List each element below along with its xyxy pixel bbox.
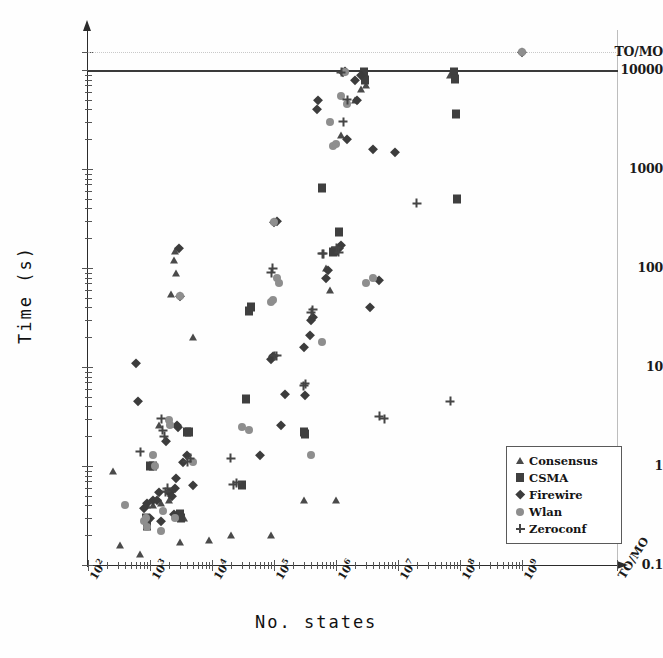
x-tick-minor	[311, 562, 312, 569]
x-axis-title: No. states	[255, 612, 377, 632]
data-point-consensus	[109, 467, 117, 474]
legend-item-zeroconf[interactable]: Zeroconf	[511, 520, 617, 537]
x-tick-minor	[147, 562, 148, 569]
data-point-wlan	[159, 507, 167, 515]
data-point-zeroconf	[339, 117, 348, 126]
y-tick-minor	[85, 337, 92, 338]
legend-item-label: Wlan	[529, 505, 562, 519]
legend-item-csma[interactable]: CSMA	[511, 469, 617, 486]
data-point-wlan	[142, 514, 150, 522]
circle-marker-icon	[511, 506, 529, 518]
x-tick-minor	[373, 562, 374, 569]
y-tick-minor	[85, 85, 92, 86]
data-point-consensus	[170, 257, 178, 264]
square-marker-icon	[511, 472, 529, 484]
square-glyph	[516, 473, 524, 482]
x-tick-minor	[268, 562, 269, 569]
y-tick-minor	[85, 80, 92, 81]
data-point-consensus	[116, 541, 124, 548]
y-tick-minor	[85, 481, 92, 482]
y-tick-minor	[85, 307, 92, 308]
x-tick-minor	[441, 562, 442, 569]
y-tick-minor	[85, 283, 92, 284]
x-tick-minor	[333, 562, 334, 569]
data-point-wlan	[275, 279, 283, 287]
y-tick-minor	[85, 238, 92, 239]
data-point-zeroconf	[336, 68, 345, 77]
y-tick-minor	[85, 290, 92, 291]
y-tick-major	[82, 367, 93, 368]
x-tick-minor	[379, 562, 380, 569]
data-point-wlan	[171, 514, 179, 522]
legend-item-firewire[interactable]: Firewire	[511, 486, 617, 503]
data-point-zeroconf	[268, 264, 277, 273]
x-tick-minor	[508, 562, 509, 569]
y-tick-minor	[85, 122, 92, 123]
legend[interactable]: ConsensusCSMAFirewireWlanZeroconf	[506, 446, 622, 544]
data-point-wlan	[326, 118, 334, 126]
data-point-consensus	[136, 550, 144, 557]
y-tick-label-tomo: TO/MO	[587, 44, 663, 59]
x-tick-minor	[136, 562, 137, 569]
data-point-zeroconf	[319, 249, 328, 258]
data-point-wlan	[149, 451, 157, 459]
x-tick-minor	[304, 562, 305, 569]
data-point-zeroconf	[136, 447, 145, 456]
x-tick-minor	[187, 562, 188, 569]
circle-glyph	[516, 508, 524, 516]
x-tick-minor	[428, 562, 429, 569]
x-tick-minor	[206, 562, 207, 569]
y-tick-minor	[85, 184, 92, 185]
legend-item-wlan[interactable]: Wlan	[511, 503, 617, 520]
x-tick-minor	[118, 562, 119, 569]
y-tick-minor	[85, 488, 92, 489]
data-point-zeroconf	[160, 432, 169, 441]
data-point-zeroconf	[272, 351, 281, 360]
y-tick-label: 1000	[587, 161, 663, 176]
data-point-wlan	[318, 338, 326, 346]
data-point-zeroconf	[226, 454, 235, 463]
x-tick-minor	[202, 562, 203, 569]
data-point-zeroconf	[232, 478, 241, 487]
plus-glyph	[516, 524, 525, 533]
legend-item-label: Firewire	[529, 488, 583, 502]
x-tick-minor	[512, 562, 513, 569]
x-tick-minor	[446, 562, 447, 569]
data-point-csma	[301, 430, 309, 439]
y-tick-minor	[85, 397, 92, 398]
x-tick-minor	[131, 562, 132, 569]
y-tick-minor	[85, 436, 92, 437]
data-point-consensus	[300, 497, 308, 504]
data-point-consensus	[227, 532, 235, 539]
y-tick-minor	[85, 179, 92, 180]
x-tick-minor	[180, 562, 181, 569]
x-tick-minor	[260, 562, 261, 569]
y-tick-major	[82, 466, 93, 467]
y-tick-major	[82, 268, 93, 269]
legend-item-consensus[interactable]: Consensus	[511, 452, 617, 469]
y-tick-minor	[85, 139, 92, 140]
x-tick-minor	[198, 562, 199, 569]
y-tick-minor	[85, 92, 92, 93]
legend-item-label: CSMA	[529, 471, 568, 485]
data-point-wlan	[270, 218, 278, 226]
data-point-consensus	[167, 290, 175, 297]
data-point-csma	[335, 228, 343, 237]
data-point-wlan	[362, 279, 370, 287]
data-point-wlan	[176, 292, 184, 300]
y-tick-minor	[85, 100, 92, 101]
x-tick-minor	[457, 562, 458, 569]
y-tick-minor	[85, 221, 92, 222]
x-tick-minor	[497, 562, 498, 569]
y-tick-minor	[85, 377, 92, 378]
data-point-wlan	[121, 501, 129, 509]
x-tick-minor	[330, 562, 331, 569]
y-tick-minor	[85, 372, 92, 373]
y-tick-minor	[85, 273, 92, 274]
x-tick-minor	[326, 562, 327, 569]
x-tick-minor	[435, 562, 436, 569]
triangle-marker-icon	[511, 455, 529, 467]
y-tick-minor	[85, 518, 92, 519]
x-tick-minor	[144, 562, 145, 569]
data-point-csma	[318, 183, 326, 192]
